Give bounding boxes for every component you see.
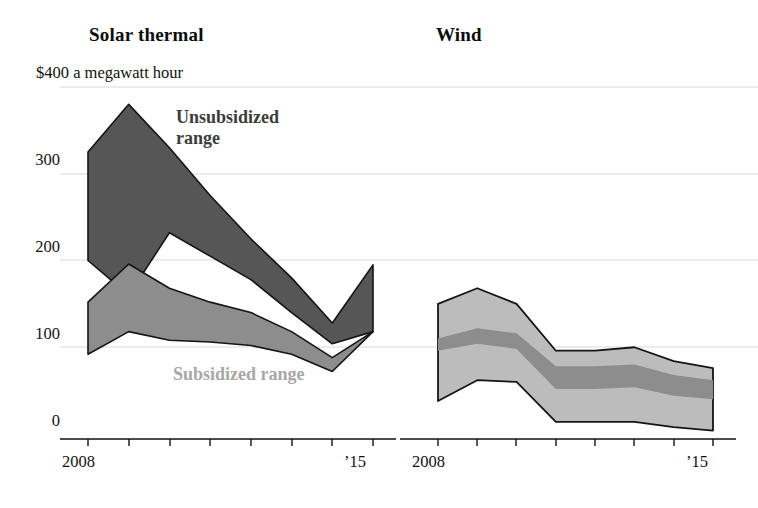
plot-area-wind — [438, 288, 713, 430]
solar-subsidized-band — [88, 264, 373, 372]
chart-panel: Solar thermal Wind $400 a megawatt hour … — [0, 0, 758, 508]
chart-svg — [0, 0, 758, 508]
x-axis-wind — [400, 439, 736, 446]
x-axis-solar — [60, 439, 396, 446]
wind-subsidized-band — [438, 288, 713, 430]
plot-area-solar — [88, 104, 373, 371]
